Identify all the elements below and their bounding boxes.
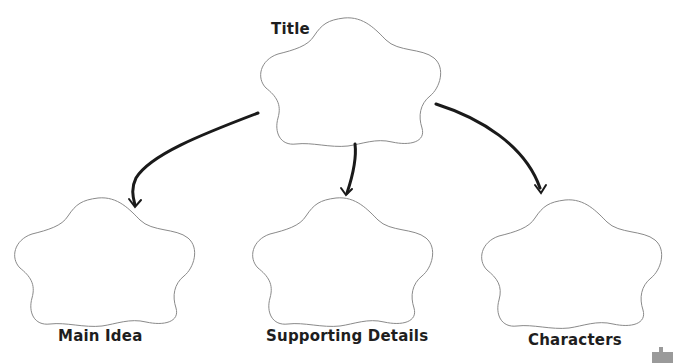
arrow-to-main-idea bbox=[129, 113, 258, 207]
diagram-canvas bbox=[0, 0, 673, 363]
corner-scan-mark bbox=[652, 352, 673, 363]
characters-label: Characters bbox=[528, 331, 622, 349]
supporting-details-cloud bbox=[253, 198, 433, 327]
main-idea-label: Main Idea bbox=[58, 327, 143, 345]
arrow-to-characters bbox=[436, 104, 546, 193]
characters-cloud bbox=[482, 200, 662, 329]
title-label: Title bbox=[271, 20, 310, 38]
supporting-details-label: Supporting Details bbox=[266, 327, 428, 345]
main-idea-cloud bbox=[15, 198, 195, 327]
arrow-to-supporting-details bbox=[341, 144, 355, 195]
graphic-organizer: Title Main Idea Supporting Details Chara… bbox=[0, 0, 673, 363]
